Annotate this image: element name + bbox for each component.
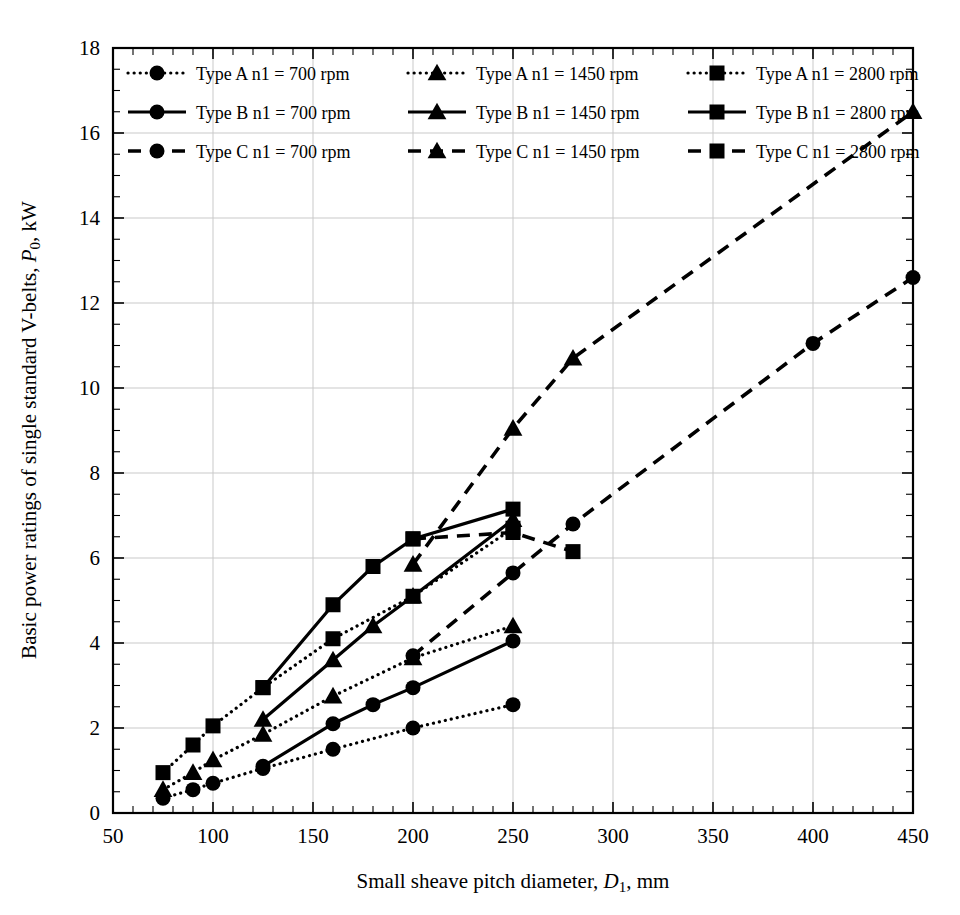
- svg-text:Basic power ratings of single: Basic power ratings of single standard V…: [17, 201, 43, 659]
- marker-square: [710, 66, 725, 81]
- marker-square: [156, 765, 171, 780]
- marker-square: [506, 525, 521, 540]
- legend-label: Type B n1 = 700 rpm: [196, 103, 350, 123]
- marker-circle: [366, 697, 381, 712]
- marker-circle: [506, 697, 521, 712]
- legend-label: Type A n1 = 1450 rpm: [476, 64, 638, 84]
- x-tick-label: 250: [497, 824, 529, 848]
- legend-label: Type A n1 = 700 rpm: [196, 64, 349, 84]
- x-tick-labels: 50100150200250300350400450: [103, 824, 929, 848]
- y-axis-title-main: Basic power ratings of single standard V…: [17, 262, 41, 659]
- x-axis-title-main: Small sheave pitch diameter,: [357, 869, 604, 893]
- marker-circle: [326, 742, 341, 757]
- x-tick-label: 50: [103, 824, 124, 848]
- marker-circle: [186, 782, 201, 797]
- marker-square: [326, 597, 341, 612]
- y-axis-title-symbol: P: [17, 249, 41, 263]
- chart-figure: 50100150200250300350400450 0246810121416…: [0, 0, 960, 915]
- y-axis-title-subscript: 0: [27, 242, 43, 250]
- marker-square: [256, 680, 271, 695]
- y-tick-label: 0: [90, 801, 101, 825]
- y-tick-label: 16: [79, 121, 100, 145]
- marker-square: [566, 544, 581, 559]
- x-axis-title-subscript: 1: [619, 879, 627, 895]
- y-axis-title: Basic power ratings of single standard V…: [17, 201, 43, 659]
- y-tick-label: 10: [79, 376, 100, 400]
- y-tick-label: 8: [90, 461, 101, 485]
- legend-label: Type B n1 = 2800 rpm: [756, 103, 919, 123]
- x-tick-label: 450: [897, 824, 929, 848]
- marker-circle: [150, 105, 165, 120]
- y-tick-label: 14: [79, 206, 101, 230]
- y-tick-label: 12: [79, 291, 100, 315]
- marker-circle: [150, 144, 165, 159]
- marker-circle: [406, 680, 421, 695]
- marker-square: [366, 559, 381, 574]
- y-axis-title-tail: , kW: [17, 201, 41, 242]
- legend-label: Type C n1 = 1450 rpm: [476, 142, 639, 162]
- x-axis-title-tail: , mm: [626, 869, 669, 893]
- marker-circle: [150, 66, 165, 81]
- marker-circle: [406, 648, 421, 663]
- x-axis-title-symbol: D: [603, 869, 619, 893]
- marker-square: [406, 531, 421, 546]
- chart-background: [0, 0, 960, 915]
- legend-label: Type C n1 = 700 rpm: [196, 142, 350, 162]
- x-tick-label: 100: [197, 824, 229, 848]
- x-tick-label: 400: [797, 824, 829, 848]
- power-ratings-line-chart: 50100150200250300350400450 0246810121416…: [0, 0, 960, 915]
- marker-square: [710, 144, 725, 159]
- x-tick-label: 150: [297, 824, 329, 848]
- legend-label: Type A n1 = 2800 rpm: [756, 64, 918, 84]
- y-tick-label: 2: [90, 716, 101, 740]
- marker-circle: [806, 336, 821, 351]
- x-tick-label: 200: [397, 824, 429, 848]
- y-tick-label: 6: [90, 546, 101, 570]
- legend-label: Type B n1 = 1450 rpm: [476, 103, 639, 123]
- chart-legend: Type A n1 = 700 rpmType A n1 = 1450 rpmT…: [128, 64, 919, 162]
- marker-square: [186, 738, 201, 753]
- marker-circle: [566, 517, 581, 532]
- y-tick-label: 4: [90, 631, 101, 655]
- x-tick-label: 350: [697, 824, 729, 848]
- marker-square: [326, 631, 341, 646]
- marker-square: [710, 105, 725, 120]
- y-tick-label: 18: [79, 36, 100, 60]
- marker-square: [506, 502, 521, 517]
- x-tick-label: 300: [597, 824, 629, 848]
- marker-circle: [206, 776, 221, 791]
- marker-circle: [406, 721, 421, 736]
- marker-circle: [506, 633, 521, 648]
- marker-circle: [326, 716, 341, 731]
- legend-label: Type C n1 = 2800 rpm: [756, 142, 919, 162]
- marker-square: [206, 718, 221, 733]
- marker-circle: [506, 565, 521, 580]
- marker-circle: [256, 759, 271, 774]
